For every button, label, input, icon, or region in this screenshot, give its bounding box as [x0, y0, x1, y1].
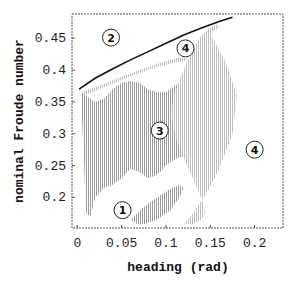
region-label-2: 2	[103, 29, 120, 46]
region-label-3: 3	[151, 122, 168, 139]
region-1-lower-lobe	[131, 185, 184, 225]
svg-text:4: 4	[251, 144, 259, 157]
svg-text:4: 4	[182, 42, 190, 55]
y-tick-label: 0.2	[43, 190, 66, 205]
x-tick-label: 0.05	[106, 236, 137, 251]
x-axis-ticks: 00.050.10.150.2	[73, 225, 266, 251]
x-tick-label: 0.15	[195, 236, 226, 251]
y-tick-label: 0.4	[43, 63, 67, 78]
x-tick-label: 0.1	[154, 236, 178, 251]
svg-text:1: 1	[119, 204, 127, 217]
region-label-4: 4	[177, 40, 194, 57]
y-axis-title: nominal Froude number	[12, 39, 27, 203]
region-label-1: 1	[114, 202, 131, 219]
y-tick-label: 0.3	[43, 127, 66, 142]
svg-text:3: 3	[156, 125, 164, 138]
y-tick-label: 0.35	[35, 95, 66, 110]
stability-chart: 00.050.10.150.2 0.20.250.30.350.40.45 12…	[0, 0, 295, 291]
x-tick-label: 0	[73, 236, 81, 251]
y-tick-label: 0.45	[35, 31, 66, 46]
y-axis-ticks: 0.20.250.30.350.40.45	[35, 31, 75, 205]
x-axis-title: heading (rad)	[127, 260, 228, 275]
region-label-4: 4	[246, 141, 263, 158]
svg-text:2: 2	[107, 32, 115, 45]
y-tick-label: 0.25	[35, 159, 66, 174]
x-tick-label: 0.2	[243, 236, 266, 251]
